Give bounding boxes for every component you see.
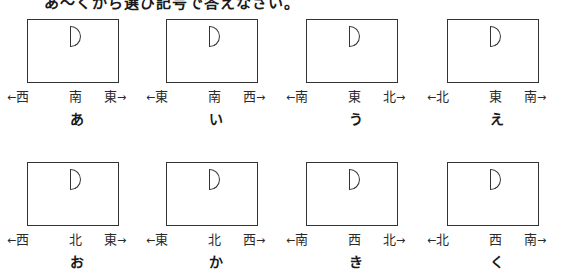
right-arrow-icon: → — [256, 91, 265, 104]
left-arrow-icon: ← — [7, 91, 16, 104]
right-arrow-icon: → — [396, 234, 405, 247]
choice-panel-e: ←北 東 南→ え — [440, 19, 560, 139]
choice-letter: あ — [67, 108, 87, 128]
choice-panel-o: ←西 北 東→ お — [20, 162, 140, 278]
choice-letter: う — [346, 108, 366, 128]
sky-frame — [27, 162, 119, 226]
sky-frame — [447, 19, 539, 83]
direction-labels: ←南 西 北→ — [286, 229, 419, 245]
choice-letter: お — [67, 251, 87, 271]
direction-center: 西 — [348, 229, 361, 248]
choice-letter: き — [346, 251, 366, 271]
left-arrow-icon: ← — [427, 91, 436, 104]
direction-labels: ←北 西 南→ — [427, 229, 560, 245]
right-arrow-icon: → — [256, 234, 265, 247]
direction-center: 北 — [208, 229, 221, 248]
right-arrow-icon: → — [537, 234, 546, 247]
choice-panel-ka: ←東 北 西→ か — [159, 162, 279, 278]
direction-right: 西→ — [243, 229, 265, 248]
direction-labels: ←西 南 東→ — [7, 86, 140, 102]
direction-right: 東→ — [104, 229, 126, 248]
sky-frame — [27, 19, 119, 83]
right-arrow-icon: → — [537, 91, 546, 104]
choice-letter: い — [206, 108, 226, 128]
choice-panel-ku: ←北 西 南→ く — [440, 162, 560, 278]
direction-labels: ←南 東 北→ — [286, 86, 419, 102]
direction-labels: ←東 北 西→ — [146, 229, 279, 245]
sky-frame — [166, 162, 258, 226]
sky-frame — [306, 19, 398, 83]
direction-right: 西→ — [243, 86, 265, 105]
left-arrow-icon: ← — [7, 234, 16, 247]
half-moon-icon — [349, 169, 360, 190]
left-arrow-icon: ← — [146, 234, 155, 247]
choice-panel-i: ←東 南 西→ い — [159, 19, 279, 139]
direction-labels: ←東 南 西→ — [146, 86, 279, 102]
direction-left: ←南 — [286, 229, 308, 248]
sky-frame — [306, 162, 398, 226]
direction-labels: ←西 北 東→ — [7, 229, 140, 245]
right-arrow-icon: → — [117, 234, 126, 247]
choice-letter: く — [487, 251, 507, 271]
direction-right: 北→ — [383, 229, 405, 248]
direction-center: 南 — [69, 86, 82, 105]
sky-frame — [447, 162, 539, 226]
choice-panel-ki: ←南 西 北→ き — [299, 162, 419, 278]
instruction-text: あ～くから選び記号で答えなさい。 — [44, 0, 300, 12]
half-moon-icon — [349, 26, 360, 47]
left-arrow-icon: ← — [146, 91, 155, 104]
direction-left: ←北 — [427, 229, 449, 248]
direction-labels: ←北 東 南→ — [427, 86, 560, 102]
direction-right: 南→ — [524, 229, 546, 248]
choice-panel-u: ←南 東 北→ う — [299, 19, 419, 139]
half-moon-icon — [70, 169, 81, 190]
sky-frame — [166, 19, 258, 83]
half-moon-icon — [490, 169, 501, 190]
direction-center: 東 — [348, 86, 361, 105]
direction-left: ←東 — [146, 86, 168, 105]
direction-center: 西 — [489, 229, 502, 248]
direction-left: ←西 — [7, 86, 29, 105]
half-moon-icon — [70, 26, 81, 47]
half-moon-icon — [490, 26, 501, 47]
direction-right: 東→ — [104, 86, 126, 105]
direction-left: ←西 — [7, 229, 29, 248]
direction-center: 北 — [69, 229, 82, 248]
choice-letter: か — [206, 251, 226, 271]
direction-center: 南 — [208, 86, 221, 105]
direction-left: ←東 — [146, 229, 168, 248]
left-arrow-icon: ← — [427, 234, 436, 247]
left-arrow-icon: ← — [286, 91, 295, 104]
half-moon-icon — [209, 169, 220, 190]
left-arrow-icon: ← — [286, 234, 295, 247]
direction-left: ←北 — [427, 86, 449, 105]
direction-left: ←南 — [286, 86, 308, 105]
right-arrow-icon: → — [396, 91, 405, 104]
direction-right: 北→ — [383, 86, 405, 105]
half-moon-icon — [209, 26, 220, 47]
direction-center: 東 — [489, 86, 502, 105]
choice-letter: え — [487, 108, 507, 128]
right-arrow-icon: → — [117, 91, 126, 104]
direction-right: 南→ — [524, 86, 546, 105]
choice-panel-a: ←西 南 東→ あ — [20, 19, 140, 139]
